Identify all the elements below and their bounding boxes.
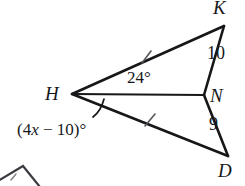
geometry-figure: K H N D 10 9 24° (4x − 10)° (0, 0, 245, 186)
variable-x: x (31, 120, 39, 139)
cropped-adjacent-figure (0, 166, 40, 186)
degree-symbol: ° (79, 120, 86, 139)
segment-HD (72, 94, 228, 156)
figure-canvas (0, 0, 245, 186)
constant: 10 (57, 120, 74, 139)
vertex-label-H: H (45, 84, 59, 103)
vertex-label-N: N (210, 86, 223, 105)
vertex-label-K: K (213, 0, 226, 17)
segment-measure-ND: 9 (209, 115, 218, 133)
angle-expression-NHD: (4x − 10)° (17, 121, 86, 138)
angle-measure-KHN: 24° (127, 69, 151, 86)
minus-operator: − (43, 120, 53, 139)
coefficient: 4 (23, 120, 32, 139)
segment-HN (72, 94, 204, 95)
vertex-label-D: D (218, 161, 232, 180)
segment-measure-KN: 10 (207, 44, 225, 62)
